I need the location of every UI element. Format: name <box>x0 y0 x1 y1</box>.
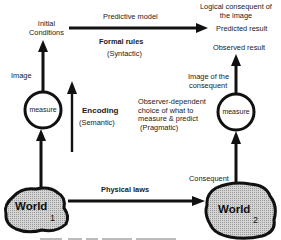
logical-consequent-label: Logical consequent of the image <box>200 3 272 20</box>
image-of-consequent-label: Image of the consequent <box>188 73 229 90</box>
measure-label-right: measure <box>216 108 256 115</box>
image-arrow-left <box>38 40 48 92</box>
formal-rules-label: Formal rules <box>99 38 143 47</box>
world2-to-measure-arrow <box>231 131 241 184</box>
physical-laws-label: Physical laws <box>101 186 149 195</box>
consequent-label: Consequent <box>189 175 229 184</box>
syntactic-label: (Syntactic) <box>107 50 142 59</box>
observed-result-arrow <box>231 54 241 93</box>
observer-line4: (Pragmatic) <box>138 124 206 133</box>
encoding-label: Encoding <box>82 107 118 116</box>
initial-conditions-label: Initial Conditions <box>29 20 64 37</box>
world1-subscript: 1 <box>50 213 55 223</box>
predictive-model-arrow <box>69 23 208 33</box>
physical-laws-arrow <box>68 196 205 206</box>
world2-subscript: 2 <box>253 215 258 225</box>
world1-to-measure-arrow <box>36 129 46 190</box>
predictive-model-label: Predictive model <box>103 13 158 22</box>
logical-consequent-line2: the image <box>200 12 272 21</box>
observer-dependent-label: Observer-dependent choice of what to mea… <box>138 98 206 132</box>
world2-label: World <box>218 203 250 215</box>
conditions-label-line2: Conditions <box>29 29 64 38</box>
image-label: Image <box>11 72 32 81</box>
encoding-arrow <box>67 81 77 152</box>
consequent-line: consequent <box>188 82 229 91</box>
semantic-label: (Semantic) <box>79 119 115 128</box>
measure-label-left: measure <box>23 106 63 113</box>
predicted-result-label: Predicted result <box>216 25 267 34</box>
observed-result-label: Observed result <box>213 44 265 53</box>
world1-label: World <box>15 200 47 212</box>
